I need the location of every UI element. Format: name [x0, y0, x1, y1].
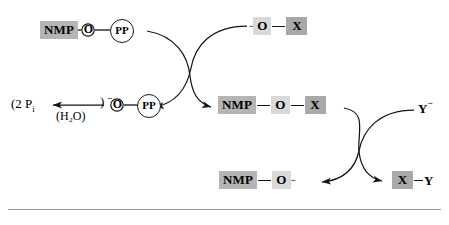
reactant-o-minus-x: − O X: [249, 17, 307, 35]
chip-nmp-middle: NMP: [218, 96, 256, 114]
circle-pp-icon-top: PP: [110, 19, 134, 43]
circle-pp-icon-left: PP: [137, 94, 161, 118]
bond-x-y-bottom: [414, 180, 423, 181]
pp-group-left: PP: [137, 94, 161, 118]
charge-minus-o-bottom: −: [291, 176, 296, 185]
closing-paren-left: ): [100, 95, 104, 108]
pp-group-top: PP: [110, 19, 134, 43]
water-label: (H₂O): [56, 110, 86, 122]
phosphate-text: (2 P: [11, 96, 32, 111]
reactant-nmp-o-pp: NMP: [40, 21, 78, 39]
intermediate-nmp-o-x: NMP O X: [218, 96, 326, 114]
arrow-top-right-to-product-left: [155, 26, 247, 107]
chip-o-top: O: [253, 17, 271, 35]
reactant-y-minus: Y−: [418, 99, 433, 115]
phosphate-label: (2 Pi: [11, 97, 35, 114]
chip-x-bottom: X: [392, 171, 413, 189]
product-x-y: X Y: [392, 171, 433, 189]
chip-x-top: X: [286, 17, 307, 35]
bond-o-x-middle: [291, 105, 304, 106]
y-label: Y: [418, 102, 427, 115]
chip-x-middle: X: [305, 96, 326, 114]
y-label-bottom: Y: [424, 174, 433, 187]
bond-nmp-o-middle: [257, 105, 270, 106]
chip-o-middle: O: [271, 96, 289, 114]
chip-o-bottom: O: [272, 171, 290, 189]
bottom-divider: [8, 209, 441, 210]
oxygen-label-left: O: [111, 98, 124, 110]
chip-nmp-top: NMP: [40, 21, 78, 39]
charge-minus-y: −: [427, 98, 432, 108]
chip-nmp-bottom: NMP: [219, 171, 257, 189]
phosphate-subscript: i: [32, 104, 35, 114]
bond-o-x-top: [272, 26, 285, 27]
reaction-diagram-page: NMP O PP − O X (2 Pi (H₂O) ) − O PP NMP …: [0, 0, 449, 225]
bond-nmp-o-bottom: [258, 180, 271, 181]
water-text: (H₂O): [56, 109, 86, 123]
product-nmp-o-minus: NMP O −: [219, 171, 296, 189]
oxygen-label-top: O: [82, 23, 95, 35]
